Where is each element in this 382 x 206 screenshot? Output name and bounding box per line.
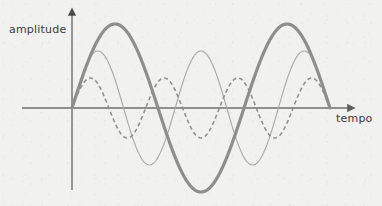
x-axis-label: tempo bbox=[336, 112, 373, 125]
axes-group bbox=[22, 15, 348, 190]
y-axis-label: amplitude bbox=[9, 23, 66, 36]
figure-canvas: amplitude tempo bbox=[0, 0, 382, 206]
